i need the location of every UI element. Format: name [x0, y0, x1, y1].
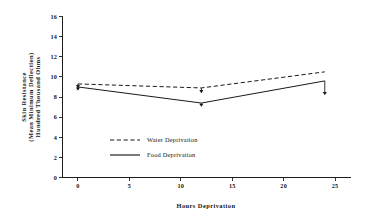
x-axis-tick-labels: 0510152025: [76, 182, 338, 189]
legend-label: Water Deprivation: [147, 136, 198, 143]
y-tick-label: 12: [50, 53, 57, 60]
y-axis-title-line: Skin Resistance: [20, 72, 27, 122]
y-tick-label: 8: [54, 93, 57, 100]
y-tick-label: 10: [50, 73, 57, 80]
error-bar-cap: [323, 92, 327, 95]
data-series-layer: [76, 72, 327, 107]
error-bar-cap: [76, 88, 80, 91]
x-tick-label: 10: [177, 182, 184, 189]
legend-label: Food Deprivation: [147, 151, 196, 158]
y-tick-label: 4: [54, 134, 57, 141]
error-bar-cap: [199, 104, 203, 107]
error-bar-cap: [199, 90, 203, 93]
x-tick-label: 25: [332, 182, 339, 189]
y-tick-label: 14: [50, 33, 57, 40]
y-tick-label: 16: [50, 13, 57, 20]
series-dashed: [76, 72, 325, 93]
x-axis-title: Hours Deprivation: [177, 202, 236, 209]
series-line: [78, 72, 325, 88]
y-axis-title-line: Hundred Thousand Ohms: [34, 56, 41, 137]
line-chart-canvas: 0246810121416 0510152025 Skin Resistance…: [0, 0, 371, 216]
chart-legend: Water DeprivationFood Deprivation: [110, 136, 198, 158]
y-tick-label: 0: [54, 174, 57, 181]
y-tick-label: 2: [54, 154, 57, 161]
y-axis-tick-labels: 0246810121416: [50, 13, 57, 181]
chart-figure: 0246810121416 0510152025 Skin Resistance…: [0, 0, 371, 216]
x-tick-label: 0: [76, 182, 79, 189]
x-tick-label: 20: [280, 182, 287, 189]
x-tick-label: 15: [229, 182, 236, 189]
axes: 0246810121416 0510152025: [50, 13, 350, 189]
y-tick-label: 6: [54, 113, 57, 120]
y-axis-title: Skin Resistance(Mean Minimum Deflection)…: [20, 52, 41, 141]
x-tick-label: 5: [128, 182, 131, 189]
